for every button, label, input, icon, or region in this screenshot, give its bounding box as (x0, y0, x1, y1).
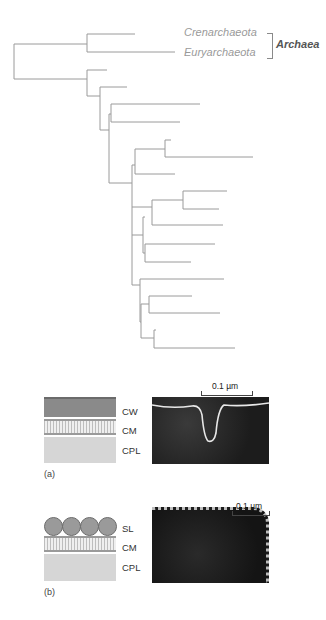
layer-label-sl: SL (122, 523, 134, 534)
cell-wall-layer (44, 397, 116, 417)
panel-label-a: (a) (44, 469, 55, 479)
euryarchaeota-label: Euryarchaeota (184, 46, 256, 58)
membrane-layer (44, 536, 116, 552)
scale-bar-a (201, 391, 253, 396)
layer-label-cw: CW (122, 406, 138, 417)
panel-b-micrograph (152, 507, 269, 583)
panel-b-schematic (44, 517, 116, 581)
s-layer-circle (62, 517, 81, 536)
layer-label-cpl: CPL (122, 562, 140, 573)
membrane-layer (44, 419, 116, 435)
s-layer-circle (80, 517, 99, 536)
cytoplasm-layer (44, 437, 116, 463)
phylogenetic-tree (0, 0, 326, 370)
archaea-bracket (267, 33, 273, 59)
scale-label-b: 0.1 µm (236, 501, 262, 511)
cytoplasm-layer (44, 554, 116, 581)
panel-label-b: (b) (44, 587, 55, 597)
layer-label-cm: CM (122, 542, 137, 553)
layer-label-cm: CM (122, 425, 137, 436)
membrane-invagination-outline (152, 397, 269, 464)
panel-a-schematic (44, 397, 116, 463)
s-layer-circle (44, 517, 63, 536)
crenarchaeota-label: Crenarchaeota (184, 26, 257, 38)
scale-label-a: 0.1 µm (212, 381, 238, 391)
layer-label-cpl: CPL (122, 445, 140, 456)
panel-a-micrograph (152, 397, 269, 464)
scale-bar-b (232, 511, 270, 516)
archaea-label: Archaea (276, 38, 319, 50)
s-layer-circle (98, 517, 117, 536)
